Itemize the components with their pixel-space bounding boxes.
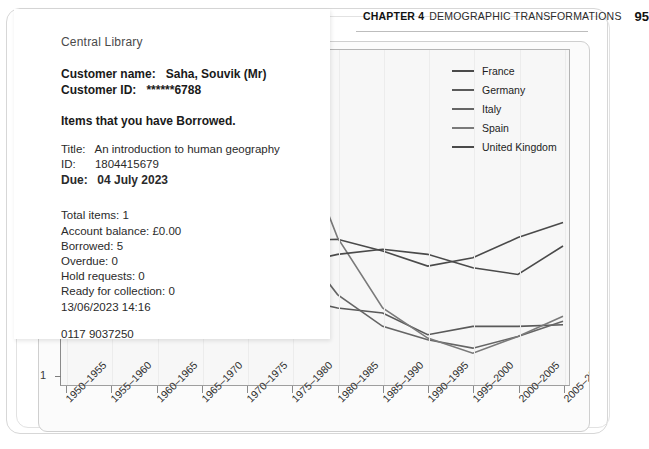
y-tick-mark-1 — [55, 376, 61, 377]
receipt-customer-name-label: Customer name: — [61, 67, 156, 81]
receipt-customer-name-value: Saha, Souvik (Mr) — [166, 67, 267, 81]
receipt-summary-value: 1 — [122, 209, 128, 221]
receipt-item-due-row: Due: 04 July 2023 — [61, 173, 330, 189]
receipt-printed-timestamp: 13/06/2023 14:16 — [61, 300, 330, 315]
legend-swatch — [452, 127, 474, 129]
legend-swatch — [452, 89, 474, 91]
legend-item-spain: Spain — [452, 118, 577, 137]
running-head-title: DEMOGRAPHIC TRANSFORMATIONS — [429, 10, 621, 22]
receipt-summary-value: 5 — [117, 240, 123, 252]
receipt-summary-value: 0 — [138, 270, 144, 282]
receipt-summary-row: Hold requests: 0 — [61, 269, 330, 284]
receipt-summary-row: Total items: 1 — [61, 208, 330, 223]
legend-item-united-kingdom: United Kingdom — [452, 137, 577, 156]
receipt-item-title-label: Title: — [61, 143, 86, 155]
legend-item-italy: Italy — [452, 99, 577, 118]
chart-gridline — [339, 50, 340, 385]
receipt-summary-label: Hold requests: — [61, 270, 135, 282]
running-head-chapter: CHAPTER 4 — [363, 10, 424, 22]
receipt-customer-name-row: Customer name: Saha, Souvik (Mr) — [61, 67, 330, 83]
legend-swatch — [452, 70, 474, 72]
receipt-summary-row: Borrowed: 5 — [61, 239, 330, 254]
receipt-item-id-label: ID: — [61, 158, 76, 170]
receipt-branch-name: Central Library — [61, 35, 330, 51]
legend-swatch — [452, 146, 474, 148]
receipt-item-due-label: Due: — [61, 173, 88, 187]
receipt-summary-label: Ready for collection: — [61, 285, 165, 297]
receipt-summary-value: £0.00 — [152, 225, 181, 237]
legend-label: Germany — [482, 84, 525, 96]
receipt-item-title-row: Title: An introduction to human geograph… — [61, 142, 330, 157]
receipt-section-heading: Items that you have Borrowed. — [61, 114, 330, 130]
page-number: 95 — [635, 9, 649, 24]
receipt-summary-label: Borrowed: — [61, 240, 113, 252]
receipt-summary-value: 0 — [112, 255, 118, 267]
legend-label: Spain — [482, 122, 509, 134]
receipt-summary-label: Account balance: — [61, 225, 149, 237]
receipt-summary-row: Account balance: £0.00 — [61, 224, 330, 239]
receipt-summary-row: Ready for collection: 0 — [61, 284, 330, 299]
chart-legend: FranceGermanyItalySpainUnited Kingdom — [452, 61, 577, 156]
receipt-customer-id-label: Customer ID: — [61, 83, 136, 97]
receipt-item-id-row: ID: 1804415679 — [61, 157, 330, 172]
x-axis-labels: 1950–19551955–19601960–19651965–19701970… — [39, 390, 589, 430]
receipt-customer-id-value: ******6788 — [146, 83, 201, 97]
legend-item-germany: Germany — [452, 80, 577, 99]
receipt-item-title-value: An introduction to human geography — [94, 143, 279, 155]
chart-gridline — [384, 50, 385, 385]
receipt-summary-label: Total items: — [61, 209, 119, 221]
receipt-summary-value: 0 — [168, 285, 174, 297]
y-tick-label-1: 1 — [40, 369, 46, 381]
chart-gridline — [429, 50, 430, 385]
receipt-summary-list: Total items: 1Account balance: £0.00Borr… — [61, 208, 330, 299]
receipt-phone: 0117 9037250 — [61, 327, 330, 339]
receipt-item-id-value: 1804415679 — [95, 158, 159, 170]
receipt-summary-row: Overdue: 0 — [61, 254, 330, 269]
receipt-summary-label: Overdue: — [61, 255, 108, 267]
running-head-rule — [356, 31, 588, 32]
legend-item-france: France — [452, 61, 577, 80]
receipt-customer-id-row: Customer ID: ******6788 — [61, 83, 330, 99]
legend-label: France — [482, 65, 515, 77]
legend-label: Italy — [482, 103, 501, 115]
receipt-item-due-value: 04 July 2023 — [97, 173, 168, 187]
library-receipt-slip: Central Library Customer name: Saha, Sou… — [14, 9, 330, 339]
running-head: CHAPTER 4 DEMOGRAPHIC TRANSFORMATIONS 95 — [363, 6, 588, 26]
legend-label: United Kingdom — [482, 141, 557, 153]
legend-swatch — [452, 108, 474, 110]
